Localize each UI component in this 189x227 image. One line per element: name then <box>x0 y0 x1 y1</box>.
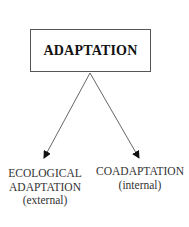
arrow-to-coadaptation <box>90 73 139 158</box>
arrow-to-ecological <box>44 73 90 158</box>
node-line: ADAPTATION <box>0 181 90 195</box>
node-line: COADAPTATION <box>95 165 185 179</box>
node-ecological-adaptation: ECOLOGICAL ADAPTATION (external) <box>0 167 90 208</box>
node-line: ECOLOGICAL <box>0 167 90 181</box>
node-line: (internal) <box>95 179 185 193</box>
node-line: (external) <box>0 194 90 208</box>
node-coadaptation: COADAPTATION (internal) <box>95 165 185 192</box>
